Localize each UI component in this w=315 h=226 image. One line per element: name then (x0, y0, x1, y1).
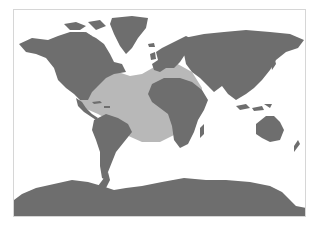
land-british-isles (150, 52, 156, 60)
land-antarctica (14, 178, 306, 217)
land-asia (184, 30, 304, 100)
land-south-america (92, 114, 132, 180)
land-madagascar (200, 124, 204, 138)
land-new-zealand (294, 140, 300, 152)
map-frame (13, 9, 306, 217)
land-iceland (148, 43, 155, 47)
land-greenland (110, 16, 148, 54)
world-map (14, 10, 306, 217)
land-australia (256, 116, 284, 142)
land-indonesia (236, 104, 272, 111)
